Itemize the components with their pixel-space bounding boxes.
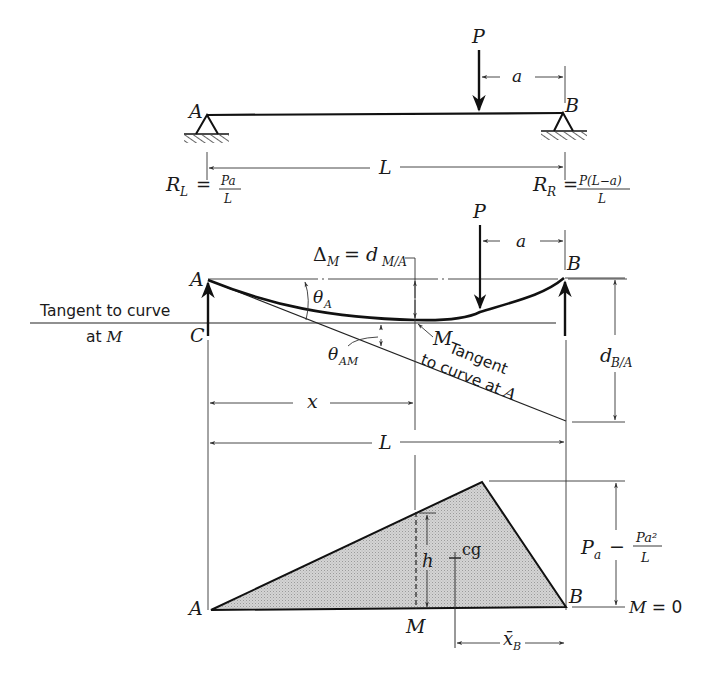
beam-deflection-diagram: A B P a L R L = Pa L R R = P(L−a) [0, 0, 709, 673]
svg-text:Δ: Δ [313, 243, 327, 265]
svg-text:B: B [512, 640, 521, 653]
svg-text:a: a [594, 548, 601, 562]
dimension-l-label-deflected: L [378, 431, 392, 453]
cg-label: cg [462, 540, 481, 559]
svg-text:Pa: Pa [220, 174, 236, 188]
svg-text:L: L [597, 192, 606, 206]
peak-moment-formula: P a − Pa² L [580, 530, 662, 565]
svg-text:=: = [563, 174, 578, 195]
svg-text:L: L [179, 185, 188, 199]
svg-text:x̄: x̄ [503, 628, 513, 649]
svg-text:P: P [580, 536, 595, 558]
point-c-label: C [190, 324, 205, 346]
svg-text:R: R [546, 185, 556, 199]
theta-am-label: θ [328, 344, 338, 364]
theta-a-arc [305, 282, 308, 320]
tangent-m-label: Tangent to curve [39, 302, 170, 320]
right-reaction-formula: R R = P(L−a) L [532, 173, 630, 206]
svg-text:A: A [323, 298, 332, 311]
moment-point-b: B [568, 585, 583, 607]
svg-text:= d: = d [344, 243, 378, 265]
dimension-x-label: x [307, 390, 318, 412]
svg-text:R: R [165, 173, 180, 195]
dimension-a-label: a [512, 66, 522, 86]
point-a-label: A [187, 100, 203, 122]
point-b-label: B [564, 94, 579, 116]
zero-moment-label: M = 0 [628, 597, 682, 617]
theta-a-label: θ [313, 287, 323, 307]
dimension-a-label-deflected: a [516, 231, 526, 251]
svg-text:R: R [532, 173, 547, 195]
left-reaction-formula: R L = Pa L [165, 173, 241, 206]
deflection-panel: P a A B C Tangent to curve at M Δ M = d … [30, 200, 633, 610]
elastic-curve [208, 278, 564, 320]
tangent-m-label-line2: at M [86, 328, 124, 346]
point-m-pointer [418, 324, 433, 337]
moment-point-m: M [405, 615, 426, 637]
xbar-b-label: x̄ B [503, 628, 521, 653]
point-a-deflected: A [188, 268, 204, 290]
right-pin-support [541, 113, 587, 140]
load-label: P [471, 25, 486, 47]
svg-text:P(L−a): P(L−a) [578, 174, 622, 188]
svg-text:AM: AM [338, 355, 359, 368]
load-label-deflected: P [472, 200, 487, 222]
d-ba-label: d B/A [600, 344, 633, 370]
svg-text:L: L [640, 550, 650, 565]
moment-panel: h cg A B M x̄ B P a − Pa² L M = 0 [187, 455, 682, 653]
dimension-l-label: L [378, 156, 392, 178]
svg-text:Pa²: Pa² [635, 530, 657, 545]
svg-text:−: − [609, 535, 625, 557]
delta-m-formula: Δ M = d M/A [313, 243, 407, 269]
svg-text:M: M [326, 255, 340, 269]
h-label: h [422, 550, 434, 571]
svg-text:=: = [196, 174, 211, 195]
svg-text:M/A: M/A [381, 255, 407, 269]
beam [207, 113, 563, 115]
svg-text:L: L [223, 192, 232, 206]
point-b-deflected: B [566, 252, 581, 274]
svg-text:B/A: B/A [610, 356, 633, 370]
moment-triangle [211, 482, 566, 610]
moment-point-a: A [187, 597, 203, 619]
loading-panel: A B P a L R L = Pa L R R = P(L−a) [165, 25, 630, 206]
